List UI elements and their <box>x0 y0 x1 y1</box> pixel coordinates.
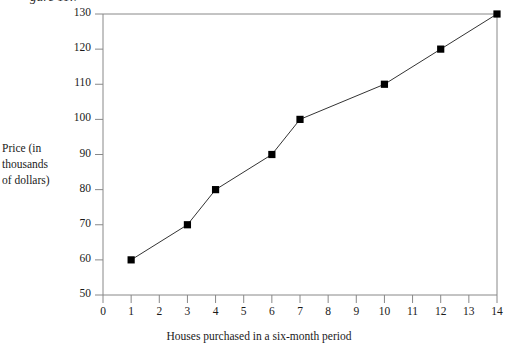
x-axis-tick-label: 6 <box>260 305 284 317</box>
data-point-marker <box>268 151 275 158</box>
data-point-marker <box>493 10 500 17</box>
y-axis-tick-label: 120 <box>61 41 91 53</box>
x-axis-tick-label: 8 <box>316 305 340 317</box>
y-axis-tick-label: 130 <box>61 6 91 18</box>
x-axis-tick-label: 5 <box>232 305 256 317</box>
x-axis-tick-label: 14 <box>485 305 509 317</box>
x-axis-tick-label: 11 <box>401 305 425 317</box>
y-axis-tick-label: 110 <box>61 76 91 88</box>
figure-container: gure 11.7 Price (in thousands of dollars… <box>0 0 518 360</box>
x-axis-tick-label: 9 <box>344 305 368 317</box>
data-point-marker <box>184 221 191 228</box>
y-axis-tick-label: 90 <box>61 147 91 159</box>
x-axis-tick-label: 12 <box>429 305 453 317</box>
data-point-marker <box>437 46 444 53</box>
x-axis-tick-label: 10 <box>372 305 396 317</box>
x-axis-tick-label: 1 <box>119 305 143 317</box>
y-axis-tick-label: 80 <box>61 182 91 194</box>
x-axis-tick-label: 4 <box>204 305 228 317</box>
data-point-marker <box>296 116 303 123</box>
y-axis-tick-label: 60 <box>61 252 91 264</box>
x-axis-tick-label: 7 <box>288 305 312 317</box>
y-axis-tick-label: 100 <box>61 111 91 123</box>
y-axis-tick-label: 50 <box>61 287 91 299</box>
x-axis-tick-label: 0 <box>91 305 115 317</box>
x-axis-tick-label: 2 <box>147 305 171 317</box>
data-point-marker <box>381 81 388 88</box>
y-axis-tick-label: 70 <box>61 217 91 229</box>
x-axis-tick-label: 3 <box>175 305 199 317</box>
x-axis-tick-label: 13 <box>457 305 481 317</box>
data-point-marker <box>212 186 219 193</box>
data-point-marker <box>128 256 135 263</box>
